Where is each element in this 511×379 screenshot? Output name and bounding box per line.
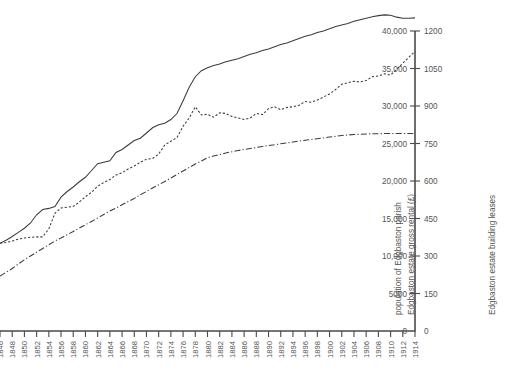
x-tick-label: 1852 — [33, 341, 42, 358]
x-tick-label: 1856 — [57, 341, 66, 358]
x-tick-label: 1904 — [350, 341, 359, 358]
y-tick-label-leases: 600 — [424, 177, 438, 186]
x-tick-label: 1900 — [326, 341, 335, 358]
x-tick-label: 1872 — [155, 341, 164, 358]
series-line-gross-rental — [0, 51, 415, 243]
y-tick-label-value: 35,000 — [382, 65, 407, 74]
x-tick-label: 1858 — [69, 341, 78, 358]
y-tick-label-value: 20,000 — [382, 177, 407, 186]
x-tick-label: 1892 — [277, 341, 286, 358]
y-tick-label-leases: 150 — [424, 290, 438, 299]
x-tick-label: 1910 — [387, 341, 396, 358]
y-tick-label-leases: 1200 — [424, 27, 443, 36]
y-tick-label-leases: 750 — [424, 140, 438, 149]
x-tick-label: 1886 — [240, 341, 249, 358]
x-tick-label: 1862 — [94, 341, 103, 358]
chart-figure: 1846184818501852185418561858186018621864… — [0, 0, 511, 379]
x-tick-label: 1854 — [45, 341, 54, 358]
y-tick-label-leases: 450 — [424, 215, 438, 224]
y-tick-label-value: 30,000 — [382, 102, 407, 111]
x-tick-label: 1882 — [216, 341, 225, 358]
series-line-population — [0, 15, 415, 243]
x-tick-label: 1874 — [167, 341, 176, 358]
y-tick-label-value: 40,000 — [382, 27, 407, 36]
x-tick-label: 1850 — [20, 341, 29, 358]
x-tick-label: 1888 — [252, 341, 261, 358]
x-tick-label: 1876 — [179, 341, 188, 358]
axis-spine — [0, 31, 415, 331]
x-axis-ticks — [0, 331, 415, 337]
x-tick-label: 1866 — [118, 341, 127, 358]
y-tick-label-value: 0 — [402, 327, 407, 336]
x-tick-label: 1880 — [204, 341, 213, 358]
y-tick-label-leases: 0 — [424, 327, 429, 336]
x-tick-label: 1846 — [0, 341, 5, 358]
y-tick-label-leases: 900 — [424, 102, 438, 111]
x-tick-label: 1898 — [313, 341, 322, 358]
y-tick-label-leases: 1050 — [424, 65, 443, 74]
x-tick-label: 1868 — [130, 341, 139, 358]
x-tick-label: 1908 — [374, 341, 383, 358]
x-tick-label: 1878 — [191, 341, 200, 358]
x-axis-tick-labels: 1846184818501852185418561858186018621864… — [0, 341, 420, 358]
axis-title-population: population of Edgbaston parish — [394, 202, 403, 315]
x-tick-label: 1870 — [142, 341, 151, 358]
chart-canvas: 1846184818501852185418561858186018621864… — [0, 0, 511, 379]
x-tick-label: 1860 — [81, 341, 90, 358]
axis-title-building-leases: Edgbaston estate building leases — [488, 195, 497, 315]
axis-title-gross-rental: Edgbaston estate gross rental (£) — [407, 194, 416, 315]
x-tick-label: 1884 — [228, 341, 237, 358]
x-tick-label: 1906 — [362, 341, 371, 358]
x-tick-label: 1890 — [265, 341, 274, 358]
y-axis-tick-labels-leases: 015030045060075090010501200 — [424, 27, 443, 336]
x-tick-label: 1914 — [411, 341, 420, 358]
y-tick-label-leases: 300 — [424, 252, 438, 261]
x-tick-label: 1848 — [8, 341, 17, 358]
y-tick-label-value: 25,000 — [382, 140, 407, 149]
x-tick-label: 1894 — [289, 341, 298, 358]
series-line-building-leases — [0, 134, 415, 277]
x-tick-label: 1902 — [338, 341, 347, 358]
x-tick-label: 1912 — [399, 341, 408, 358]
x-tick-label: 1864 — [106, 341, 115, 358]
x-tick-label: 1896 — [301, 341, 310, 358]
